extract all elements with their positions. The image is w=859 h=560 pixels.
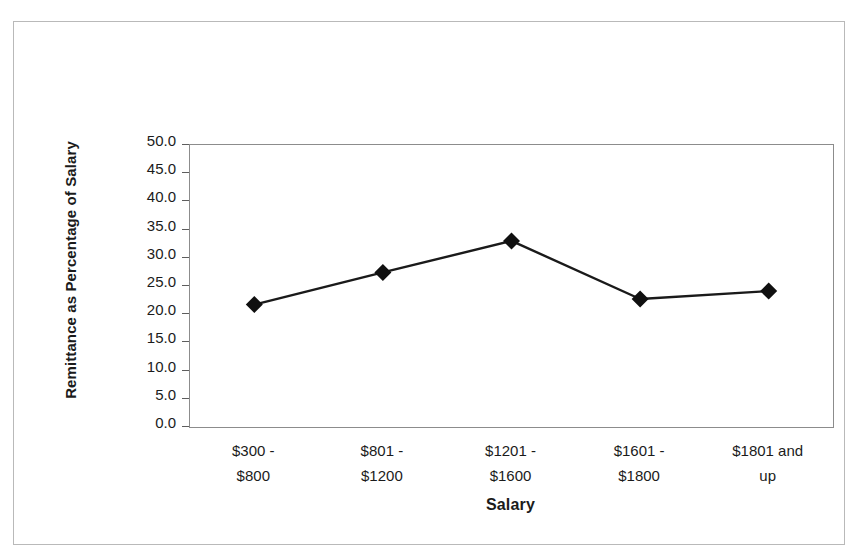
- data-point-marker: [503, 232, 520, 249]
- y-axis-title: Remittance as Percentage of Salary: [58, 80, 84, 460]
- y-axis-tick-mark: [182, 285, 189, 286]
- y-axis-tick-mark: [182, 313, 189, 314]
- y-axis-tick-mark: [182, 200, 189, 201]
- y-axis-tick-mark: [182, 257, 189, 258]
- data-point-marker: [632, 290, 649, 307]
- line-series: [190, 145, 833, 427]
- y-axis-tick-mark: [182, 341, 189, 342]
- y-axis-tick-label: 50.0: [110, 133, 176, 149]
- y-axis-tick-mark: [182, 229, 189, 230]
- x-axis-title: Salary: [189, 496, 832, 514]
- y-axis-tick-mark: [182, 426, 189, 427]
- data-point-marker: [246, 296, 263, 313]
- y-axis-tick-label: 5.0: [110, 387, 176, 403]
- x-axis-tick-label: $1201 -$1600: [446, 438, 575, 494]
- y-axis-tick-label: 15.0: [110, 330, 176, 346]
- data-point-marker: [374, 264, 391, 281]
- y-axis-tick-label: 25.0: [110, 274, 176, 290]
- x-axis-tick-label: $801 -$1200: [318, 438, 447, 494]
- y-axis-tick-label: 30.0: [110, 246, 176, 262]
- y-axis-tick-label: 35.0: [110, 218, 176, 234]
- x-axis-tick-labels: $300 -$800$801 -$1200$1201 -$1600$1601 -…: [189, 438, 832, 494]
- data-point-marker: [760, 283, 777, 300]
- y-axis-tick-mark: [182, 172, 189, 173]
- y-axis-tick-mark: [182, 370, 189, 371]
- x-axis-tick-label: $300 -$800: [189, 438, 318, 494]
- figure-frame: Remittance as Percentage of Salary 50.04…: [13, 21, 845, 545]
- y-axis-tick-label: 45.0: [110, 161, 176, 177]
- y-axis-tick-label: 0.0: [110, 415, 176, 431]
- series-line: [254, 241, 768, 305]
- y-axis-tick-label: 10.0: [110, 359, 176, 375]
- x-axis-tick-label: $1801 andup: [703, 438, 832, 494]
- y-axis-tick-mark: [182, 144, 189, 145]
- y-axis-tick-label: 40.0: [110, 189, 176, 205]
- y-axis-tick-labels: 50.045.040.035.030.025.020.015.010.05.00…: [110, 133, 176, 437]
- y-axis-tick-mark: [182, 398, 189, 399]
- y-axis-tick-label: 20.0: [110, 302, 176, 318]
- plot-area: [189, 144, 834, 428]
- x-axis-tick-label: $1601 -$1800: [575, 438, 704, 494]
